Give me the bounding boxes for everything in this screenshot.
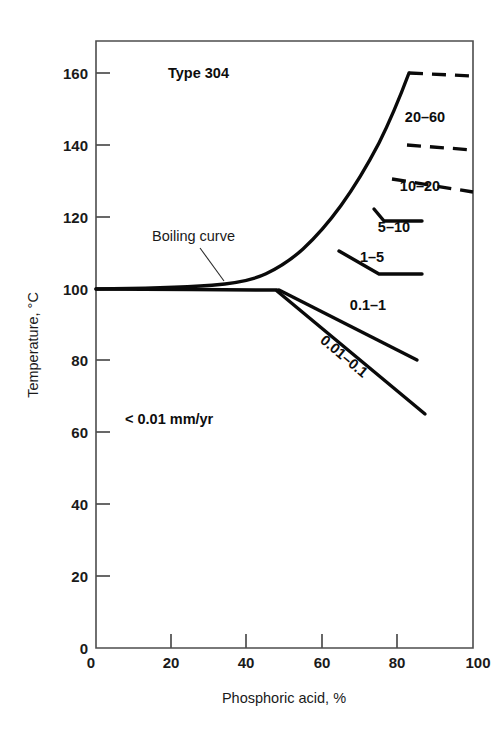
x-axis-tick-labels: 0 20 40 60 80 100 bbox=[87, 654, 491, 671]
y-tick-label: 100 bbox=[63, 281, 88, 298]
y-tick-label: 80 bbox=[71, 352, 88, 369]
y-tick-label: 120 bbox=[63, 209, 88, 226]
chart-canvas: 160 140 120 100 80 60 40 20 0 0 20 40 60… bbox=[0, 0, 500, 748]
curve-20-60 bbox=[409, 73, 473, 76]
immune-zone-label: < 0.01 mm/yr bbox=[125, 411, 214, 427]
x-axis-title: Phosphoric acid, % bbox=[222, 690, 346, 706]
material-type-label: Type 304 bbox=[168, 65, 229, 81]
y-axis-ticks bbox=[96, 73, 110, 576]
y-tick-label: 20 bbox=[71, 568, 88, 585]
curve-label-10-20: 10–20 bbox=[400, 178, 440, 194]
curve-label-5-10: 5–10 bbox=[378, 219, 410, 235]
x-tick-label: 80 bbox=[389, 654, 406, 671]
x-axis-ticks bbox=[171, 634, 397, 648]
y-tick-label: 60 bbox=[71, 424, 88, 441]
curve-label-0-01-0-1: 0.01–0.1 bbox=[317, 332, 371, 381]
y-axis-tick-labels: 160 140 120 100 80 60 40 20 0 bbox=[63, 65, 88, 657]
curve-label-1-5: 1–5 bbox=[360, 249, 384, 265]
x-tick-label: 40 bbox=[238, 654, 255, 671]
y-tick-label: 40 bbox=[71, 496, 88, 513]
curve-label-20-60: 20–60 bbox=[405, 109, 445, 125]
curve-label-0-1-1: 0.1–1 bbox=[350, 297, 386, 313]
y-tick-label: 140 bbox=[63, 137, 88, 154]
plot-frame bbox=[96, 41, 473, 648]
x-tick-label: 20 bbox=[163, 654, 180, 671]
isocorrosion-chart-figure: 160 140 120 100 80 60 40 20 0 0 20 40 60… bbox=[0, 0, 500, 748]
boiling-curve-leader-line bbox=[200, 248, 224, 281]
x-tick-label: 100 bbox=[465, 654, 490, 671]
boiling-curve-label: Boiling curve bbox=[152, 228, 235, 244]
x-tick-label: 0 bbox=[87, 654, 95, 671]
y-axis-title: Temperature, °C bbox=[25, 292, 41, 398]
y-tick-label: 160 bbox=[63, 65, 88, 82]
curve-10-20 bbox=[407, 145, 473, 150]
x-tick-label: 60 bbox=[314, 654, 331, 671]
